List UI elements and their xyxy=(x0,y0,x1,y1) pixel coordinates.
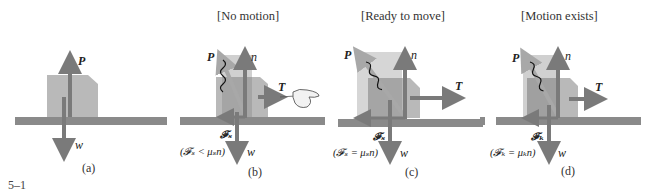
panel-d-graphics xyxy=(480,55,641,153)
ground-surface xyxy=(15,117,158,125)
panel-a-graphics xyxy=(15,62,158,150)
label-n: n xyxy=(565,49,571,64)
block xyxy=(47,75,98,117)
label-T: T xyxy=(278,80,285,95)
diagram-graphics xyxy=(0,0,651,194)
equation-b: (𝓕ₛ < μₛn) xyxy=(180,145,225,158)
label-P: P xyxy=(78,54,85,69)
label-w: w xyxy=(558,146,566,161)
label-P: P xyxy=(344,48,351,63)
label-n: n xyxy=(411,48,417,63)
panel-b-graphics xyxy=(150,55,325,153)
title-ready-to-move: [Ready to move] xyxy=(361,9,445,24)
equation-d: (𝓕ₖ = μₖn) xyxy=(490,146,536,159)
caption-b: (b) xyxy=(248,165,262,180)
title-no-motion: [No motion] xyxy=(217,9,279,24)
label-T: T xyxy=(455,79,462,94)
label-n: n xyxy=(251,50,257,65)
label-w: w xyxy=(247,145,255,160)
label-w: w xyxy=(400,146,408,161)
label-P: P xyxy=(512,51,519,66)
ground-surface xyxy=(180,117,325,125)
panel-c-graphics xyxy=(338,52,483,153)
ground-surface xyxy=(496,117,641,125)
caption-a: (a) xyxy=(82,161,95,176)
label-friction: 𝓕ₛ xyxy=(220,128,232,141)
figure-number: 5–1 xyxy=(8,178,26,193)
label-friction: 𝓕ₖ xyxy=(531,130,545,143)
caption-d: (d) xyxy=(561,164,575,179)
label-T: T xyxy=(595,80,602,95)
equation-c: (𝓕ₛ = μₛn) xyxy=(333,146,378,159)
title-motion-exists: [Motion exists] xyxy=(521,9,598,24)
label-friction: 𝓕ₛ xyxy=(373,130,385,143)
hand-icon xyxy=(293,89,319,107)
caption-c: (c) xyxy=(405,165,418,180)
ground-surface xyxy=(338,119,483,127)
label-w: w xyxy=(75,138,83,153)
label-P: P xyxy=(207,50,214,65)
